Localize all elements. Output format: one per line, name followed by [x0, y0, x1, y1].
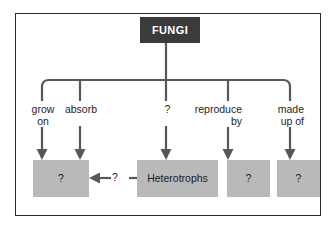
node-heterotrophs-label: Heterotrophs	[147, 173, 208, 184]
node-fungi: FUNGI	[140, 17, 200, 43]
node-grow-on-target-label: ?	[58, 173, 64, 184]
node-grow-on-target: ?	[33, 160, 89, 197]
arrowhead-grow-on	[37, 149, 48, 160]
node-reproduce-by-target: ?	[227, 160, 270, 197]
branch-label-reproduce-by: reproduce by	[183, 104, 243, 127]
arrowhead-unknown	[161, 149, 172, 160]
node-made-up-of-target: ?	[277, 160, 320, 197]
arrowhead-absorb	[75, 149, 86, 160]
branch-label-unknown: ?	[158, 104, 177, 116]
node-heterotrophs: Heterotrophs	[137, 160, 218, 197]
arrowhead-reproduce	[223, 149, 234, 160]
diagram-canvas: FUNGI grow on absorb ? reproduce by made…	[0, 0, 335, 228]
arrowhead-made-up-of	[285, 149, 296, 160]
crosslink-label: ?	[111, 172, 119, 183]
arrowhead-crosslink	[89, 173, 100, 184]
node-fungi-label: FUNGI	[152, 25, 188, 36]
node-reproduce-by-target-label: ?	[246, 173, 252, 184]
branch-label-absorb: absorb	[58, 104, 104, 116]
branch-label-made-up-of: made up of	[245, 104, 305, 127]
node-made-up-of-target-label: ?	[296, 173, 302, 184]
